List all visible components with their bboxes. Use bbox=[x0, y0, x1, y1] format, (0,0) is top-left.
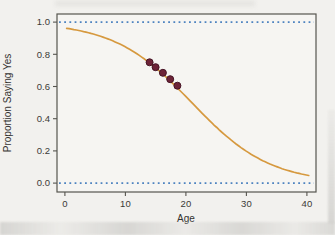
scan-artifact-bottom-shadow bbox=[0, 222, 335, 235]
logistic-regression-chart: 0102030400.00.20.40.60.81.0 Proportion S… bbox=[0, 0, 335, 235]
x-axis-tick-label: 30 bbox=[241, 198, 252, 209]
x-axis-tick-label: 20 bbox=[181, 198, 192, 209]
scan-artifact-top-smudge bbox=[55, 1, 255, 6]
x-axis-tick-label: 10 bbox=[120, 198, 131, 209]
y-axis-tick-label: 0.8 bbox=[37, 49, 50, 60]
y-axis-title: Proportion Saying Yes bbox=[2, 54, 13, 152]
plot-area bbox=[57, 14, 316, 192]
x-axis-tick-label: 0 bbox=[62, 198, 67, 209]
data-point bbox=[152, 64, 159, 71]
y-axis-tick-label: 0.0 bbox=[37, 177, 50, 188]
data-point bbox=[167, 76, 174, 83]
data-point bbox=[174, 82, 181, 89]
scan-artifact-right-shadow bbox=[328, 110, 335, 223]
x-axis-tick-label: 40 bbox=[302, 198, 313, 209]
y-axis-tick-label: 0.2 bbox=[37, 145, 50, 156]
scanned-chart-figure: 0102030400.00.20.40.60.81.0 Proportion S… bbox=[0, 0, 335, 235]
y-axis-tick-label: 0.6 bbox=[37, 81, 50, 92]
data-point bbox=[159, 69, 166, 76]
y-axis-tick-label: 1.0 bbox=[37, 16, 50, 27]
y-axis-tick-label: 0.4 bbox=[37, 113, 50, 124]
chart-layer: 0102030400.00.20.40.60.81.0 bbox=[37, 14, 316, 209]
data-point bbox=[146, 59, 153, 66]
